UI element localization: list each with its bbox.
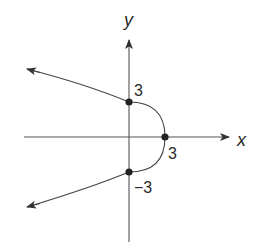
- label-vertex: 3: [168, 145, 177, 162]
- lower-arrow: [27, 204, 40, 208]
- x-axis-label: x: [236, 130, 247, 150]
- label-bottom-intercept: −3: [134, 179, 152, 196]
- point-vertex: [161, 133, 168, 140]
- parabola-graph: y x 3 3 −3: [0, 0, 256, 252]
- upper-arrow: [27, 69, 40, 73]
- point-top-intercept: [125, 98, 132, 105]
- point-bottom-intercept: [125, 168, 132, 175]
- y-axis-label: y: [122, 10, 134, 30]
- label-top-intercept: 3: [134, 82, 143, 99]
